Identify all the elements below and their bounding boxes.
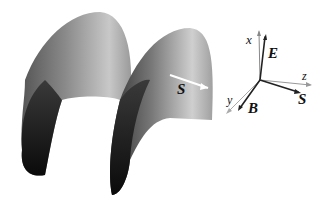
axis-label-y: y bbox=[227, 94, 232, 106]
axis-label-x: x bbox=[246, 33, 252, 46]
axis-label-S: S bbox=[298, 92, 306, 107]
figure: S x E z S y B bbox=[0, 0, 326, 207]
axis-label-z: z bbox=[302, 70, 307, 82]
axis-label-E: E bbox=[268, 46, 278, 61]
axis-label-B: B bbox=[248, 101, 258, 116]
surface-vector-label-S: S bbox=[177, 82, 185, 97]
helical-surface bbox=[0, 0, 326, 207]
